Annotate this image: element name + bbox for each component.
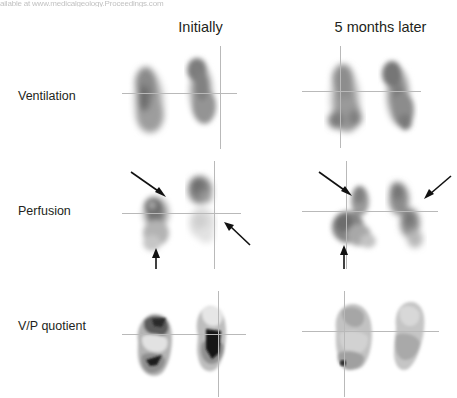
perfusion-defect-arrow-lower-left — [336, 241, 354, 269]
scan-panel-perfusion-initially — [122, 161, 272, 269]
scan-panel-ventilation-initially — [122, 46, 272, 154]
perfusion-defect-arrow-upper-left — [316, 169, 360, 203]
crosshair-horizontal — [302, 91, 421, 92]
scan-panel-perfusion-later — [302, 161, 452, 269]
perfusion-defect-arrow-right — [220, 219, 256, 249]
perfusion-defect-arrow-upper-left — [128, 169, 174, 203]
scintigram-ventilation-initially — [122, 46, 272, 154]
column-header-5-months-later: 5 months later — [298, 18, 457, 36]
scan-panel-ventilation-later — [302, 46, 452, 154]
row-label-vp-quotient: V/P quotient — [18, 318, 123, 334]
row-label-ventilation: Ventilation — [18, 88, 123, 104]
scintigram-ventilation-later — [302, 46, 452, 154]
perfusion-defect-arrow-upper-right — [418, 173, 452, 205]
perfusion-defect-arrow-lower-left — [148, 245, 166, 269]
crosshair-horizontal — [302, 331, 439, 332]
crosshair-vertical — [218, 291, 219, 397]
crosshair-vertical — [214, 161, 215, 269]
scintigram-vp-quotient-initially — [122, 291, 272, 398]
scintigram-vp-quotient-later — [302, 291, 452, 398]
crosshair-horizontal — [122, 334, 246, 335]
crosshair-horizontal — [122, 213, 241, 214]
crosshair-vertical — [340, 46, 341, 148]
column-header-initially: Initially — [118, 18, 283, 36]
scan-panel-vp-quotient-later — [302, 291, 452, 398]
crosshair-vertical — [220, 46, 221, 149]
page-header-artifact: ailable at www.medicalgeology.Proceeding… — [0, 0, 190, 7]
crosshair-vertical — [344, 291, 345, 397]
crosshair-horizontal — [302, 211, 438, 212]
row-label-perfusion: Perfusion — [18, 203, 123, 219]
scan-panel-vp-quotient-initially — [122, 291, 272, 398]
